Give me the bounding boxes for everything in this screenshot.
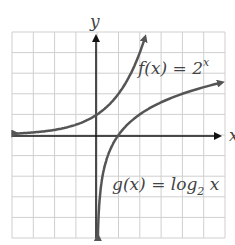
y-axis-label: y <box>89 11 100 31</box>
f-curve <box>16 37 145 134</box>
f-label: f(x) = 2x <box>136 56 210 78</box>
x-axis-label: x <box>229 125 235 145</box>
graph: y x f(x) = 2x g(x) = log2 x <box>0 0 235 245</box>
g-label: g(x) = log2 x <box>112 174 220 198</box>
